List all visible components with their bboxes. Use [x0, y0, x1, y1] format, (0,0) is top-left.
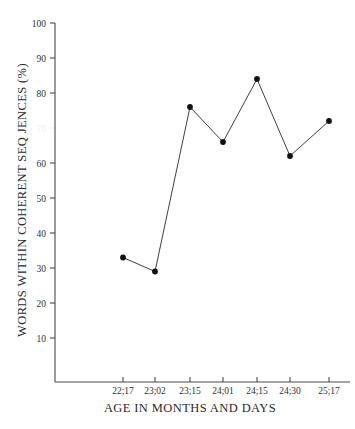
chart-figure: 102030405060708090100 22;1723;0223;1524;…: [0, 0, 355, 429]
y-tick-label-40: 40: [37, 229, 47, 239]
y-tick-label-90: 90: [37, 54, 47, 64]
data-point-1: [152, 269, 158, 275]
x-tick-label-5: 24;30: [279, 386, 301, 396]
y-axis-title-text: WORDS WITHIN COHERENT SEQ JENCES (%): [15, 63, 29, 337]
x-tick-label-2: 23;15: [179, 386, 201, 396]
x-axis-title-text: AGE IN MONTHS AND DAYS: [104, 401, 276, 415]
y-tick-label-80: 80: [37, 89, 47, 99]
data-point-4: [254, 76, 260, 82]
data-series: [120, 76, 332, 274]
x-tick-label-0: 22;17: [112, 386, 134, 396]
data-point-3: [220, 139, 226, 145]
y-tick-label-70: 70: [37, 124, 47, 134]
y-tick-label-20: 20: [37, 299, 47, 309]
x-tick-label-1: 23;02: [144, 386, 166, 396]
data-point-5: [287, 153, 293, 159]
data-point-0: [120, 255, 126, 261]
series-line: [123, 79, 329, 272]
y-tick-label-60: 60: [37, 159, 47, 169]
y-tick-label-100: 100: [32, 19, 47, 29]
line-chart: 102030405060708090100 22;1723;0223;1524;…: [0, 0, 355, 429]
y-axis-title: WORDS WITHIN COHERENT SEQ JENCES (%): [15, 63, 29, 337]
y-tick-label-30: 30: [37, 264, 47, 274]
x-axis-title: AGE IN MONTHS AND DAYS: [104, 401, 276, 415]
x-tick-label-6: 25;17: [318, 386, 340, 396]
x-axis: 22;1723;0223;1524;0124;1524;3025;17: [55, 377, 350, 396]
y-tick-label-10: 10: [37, 334, 47, 344]
data-point-6: [326, 118, 332, 124]
y-tick-label-50: 50: [37, 194, 47, 204]
data-point-2: [187, 104, 193, 110]
y-axis: 102030405060708090100: [32, 19, 55, 382]
x-tick-label-4: 24;15: [246, 386, 268, 396]
x-tick-label-3: 24;01: [212, 386, 234, 396]
